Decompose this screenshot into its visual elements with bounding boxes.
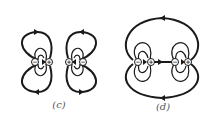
charge-sign: − bbox=[32, 58, 37, 65]
charge-sign: + bbox=[148, 58, 153, 65]
panel-c: − + + − (c) bbox=[22, 29, 96, 110]
panel-d: − + − + (d) bbox=[126, 15, 198, 112]
panel-label-d: (d) bbox=[156, 101, 170, 112]
charge-sign: + bbox=[66, 58, 71, 65]
dipole-field-figure: − + + − (c) − + − + (d) bbox=[0, 0, 212, 124]
charge-sign: + bbox=[46, 58, 51, 65]
charge-sign: + bbox=[185, 58, 190, 65]
charge-sign: − bbox=[135, 58, 140, 65]
charge-sign: − bbox=[172, 58, 177, 65]
panel-label-c: (c) bbox=[52, 99, 66, 110]
charge-sign: − bbox=[80, 58, 85, 65]
